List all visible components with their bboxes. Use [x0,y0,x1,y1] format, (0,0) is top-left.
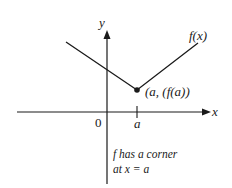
y-axis-label: y [97,15,105,30]
y-axis-arrow-icon [104,30,111,39]
origin-label: 0 [95,115,102,130]
corner-point [134,87,140,93]
function-label: f(x) [189,28,207,43]
point-label: (a, (f(a)) [145,84,190,99]
note-line-1: f has a corner [113,148,178,161]
x-axis-arrow-icon [202,109,211,116]
function-graph [66,42,198,90]
corner-diagram: y x 0 a f(x) (a, (f(a)) f has a corner a… [0,0,232,188]
note-line-2: at x = a [113,163,149,175]
x-axis-label: x [211,104,218,119]
tick-a-label: a [134,116,141,131]
